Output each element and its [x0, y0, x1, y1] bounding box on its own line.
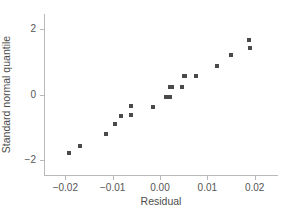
y-tick-mark	[40, 29, 44, 30]
x-tick-label: 0.02	[245, 183, 264, 193]
x-tick-label: −0.01	[100, 183, 125, 193]
x-axis-title: Residual	[44, 196, 278, 207]
data-point	[104, 132, 108, 136]
data-point	[168, 95, 172, 99]
x-axis-line	[44, 175, 278, 176]
x-tick-mark	[160, 176, 161, 180]
x-tick-mark	[113, 176, 114, 180]
y-tick-label: −2	[25, 155, 36, 165]
y-axis-line	[44, 14, 45, 176]
x-tick-mark	[207, 176, 208, 180]
data-point	[170, 85, 174, 89]
data-point	[247, 38, 251, 42]
x-tick-label: 0.00	[150, 183, 169, 193]
data-point	[183, 74, 187, 78]
data-point	[248, 46, 252, 50]
plot-area	[44, 14, 276, 175]
y-tick-label: 0	[30, 90, 36, 100]
y-tick-mark	[40, 95, 44, 96]
data-point	[67, 151, 71, 155]
y-tick-mark	[40, 160, 44, 161]
data-point	[229, 53, 233, 57]
data-point	[129, 104, 133, 108]
data-point	[194, 74, 198, 78]
data-point	[180, 85, 184, 89]
x-tick-label: −0.02	[53, 183, 78, 193]
qq-plot-figure: Residual Standard normal quantile −0.02−…	[0, 0, 299, 217]
y-axis-title: Standard normal quantile	[0, 14, 13, 175]
data-point	[129, 113, 133, 117]
data-point	[119, 114, 123, 118]
data-point	[78, 144, 82, 148]
data-point	[113, 122, 117, 126]
x-tick-mark	[65, 176, 66, 180]
x-tick-mark	[255, 176, 256, 180]
data-point	[215, 64, 219, 68]
x-tick-label: 0.01	[198, 183, 217, 193]
data-point	[151, 105, 155, 109]
y-tick-label: 2	[30, 24, 36, 34]
